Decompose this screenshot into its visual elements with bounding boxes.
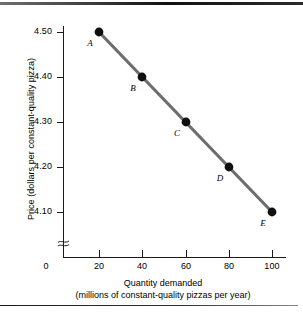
demand-curve-figure: 4.50 4.40 4.30 4.20 4.10 0 20 40 60 80 1… [0,6,303,302]
point-label-b: B [126,84,140,93]
x-axis-title-line-1: Quantity demanded [124,278,203,288]
data-point-d [225,163,234,172]
top-divider-rule [0,2,303,5]
data-point-b [138,73,147,82]
point-label-a: A [83,39,97,48]
x-axis-title: Quantity demanded (millions of constant-… [38,278,288,301]
data-point-e [268,208,277,217]
x-axis-title-line-2: (millions of constant-quality pizzas per… [38,290,288,302]
bottom-divider-rule [0,305,298,306]
data-point-c [182,118,191,127]
point-label-c: C [170,129,184,138]
demand-curve [0,6,303,302]
data-point-a [95,28,104,37]
plot-area: 4.50 4.40 4.30 4.20 4.10 0 20 40 60 80 1… [0,6,303,302]
point-label-d: D [213,174,227,183]
point-label-e: E [256,219,270,228]
y-axis-title: Price (dollars per constant-quality pizz… [26,39,36,239]
